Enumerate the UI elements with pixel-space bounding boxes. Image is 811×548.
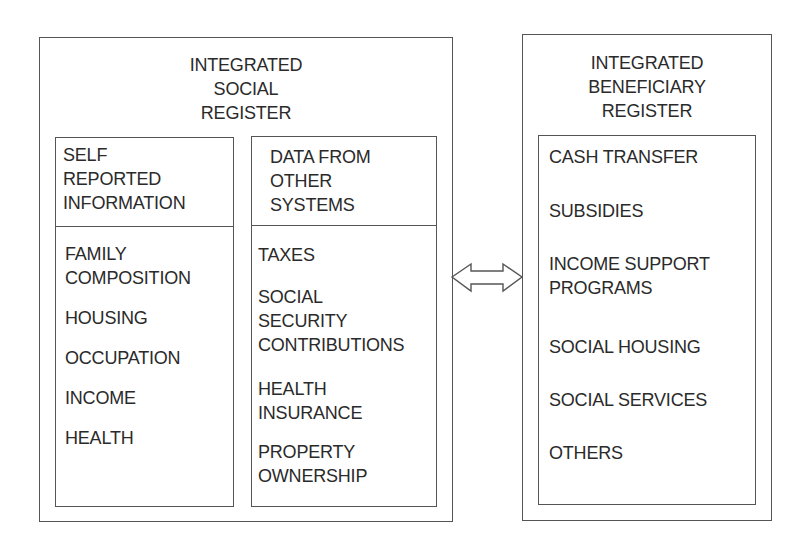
header-line: INFORMATION	[63, 191, 185, 215]
other-systems-divider	[251, 225, 437, 226]
item-line: OTHERS	[549, 441, 623, 465]
list-item-property-ownership: PROPERTY OWNERSHIP	[258, 440, 367, 488]
list-item-subsidies: SUBSIDIES	[549, 199, 643, 223]
integrated-social-register-title: INTEGRATED SOCIAL REGISTER	[39, 53, 453, 125]
list-item-health-insurance: HEALTH INSURANCE	[258, 377, 362, 425]
item-line: INCOME SUPPORT	[549, 252, 710, 276]
title-line: INTEGRATED	[522, 51, 772, 75]
title-line: REGISTER	[39, 101, 453, 125]
list-item-others: OTHERS	[549, 441, 623, 465]
self-reported-divider	[55, 226, 234, 227]
item-line: PROPERTY	[258, 440, 367, 464]
item-line: PROGRAMS	[549, 276, 710, 300]
list-item-cash-transfer: CASH TRANSFER	[549, 145, 698, 169]
item-line: INCOME	[65, 386, 136, 410]
item-line: SOCIAL SERVICES	[549, 388, 707, 412]
list-item-income: INCOME	[65, 386, 136, 410]
data-from-other-systems-header: DATA FROM OTHER SYSTEMS	[270, 145, 371, 217]
item-line: TAXES	[258, 243, 315, 267]
item-line: HEALTH	[65, 426, 133, 450]
item-line: SOCIAL HOUSING	[549, 335, 701, 359]
item-line: OCCUPATION	[65, 346, 180, 370]
item-line: COMPOSITION	[65, 266, 191, 290]
header-line: SYSTEMS	[270, 193, 371, 217]
item-line: FAMILY	[65, 242, 191, 266]
header-line: DATA FROM	[270, 145, 371, 169]
title-line: SOCIAL	[39, 77, 453, 101]
title-line: BENEFICIARY	[522, 75, 772, 99]
list-item-health: HEALTH	[65, 426, 133, 450]
list-item-social-housing: SOCIAL HOUSING	[549, 335, 701, 359]
header-line: SELF	[63, 143, 185, 167]
item-line: INSURANCE	[258, 401, 362, 425]
item-line: CASH TRANSFER	[549, 145, 698, 169]
list-item-income-support-programs: INCOME SUPPORT PROGRAMS	[549, 252, 710, 300]
integrated-beneficiary-register-title: INTEGRATED BENEFICIARY REGISTER	[522, 51, 772, 123]
item-line: HOUSING	[65, 306, 148, 330]
item-line: CONTRIBUTIONS	[258, 333, 404, 357]
header-line: OTHER	[270, 169, 371, 193]
double-arrow-icon	[450, 261, 525, 295]
list-item-social-security-contributions: SOCIAL SECURITY CONTRIBUTIONS	[258, 285, 404, 357]
item-line: HEALTH	[258, 377, 362, 401]
list-item-housing: HOUSING	[65, 306, 148, 330]
header-line: REPORTED	[63, 167, 185, 191]
item-line: SECURITY	[258, 309, 404, 333]
title-line: REGISTER	[522, 99, 772, 123]
title-line: INTEGRATED	[39, 53, 453, 77]
item-line: SUBSIDIES	[549, 199, 643, 223]
list-item-family-composition: FAMILY COMPOSITION	[65, 242, 191, 290]
list-item-social-services: SOCIAL SERVICES	[549, 388, 707, 412]
item-line: SOCIAL	[258, 285, 404, 309]
list-item-occupation: OCCUPATION	[65, 346, 180, 370]
item-line: OWNERSHIP	[258, 464, 367, 488]
list-item-taxes: TAXES	[258, 243, 315, 267]
self-reported-information-header: SELF REPORTED INFORMATION	[63, 143, 185, 215]
